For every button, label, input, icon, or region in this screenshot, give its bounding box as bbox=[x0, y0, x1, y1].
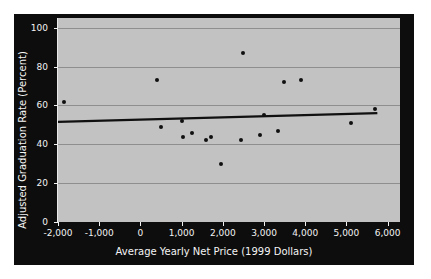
x-axis-tick bbox=[140, 222, 141, 226]
data-point bbox=[219, 162, 223, 166]
y-axis-tick-label: 80 bbox=[37, 62, 48, 71]
x-axis-tick-label: 2,000 bbox=[210, 228, 236, 238]
data-point bbox=[62, 100, 66, 104]
y-axis-tick bbox=[54, 67, 58, 68]
y-axis-tick-label: 100 bbox=[31, 23, 48, 32]
y-axis-tick bbox=[54, 144, 58, 145]
y-axis-title: Adjusted Graduation Rate (Percent) bbox=[17, 51, 29, 229]
x-axis-tick-label: 4,000 bbox=[292, 228, 318, 238]
x-axis-tick bbox=[58, 222, 59, 226]
x-axis-tick-label: 5,000 bbox=[334, 228, 360, 238]
x-axis-tick-label: 3,000 bbox=[251, 228, 277, 238]
data-point bbox=[190, 131, 194, 135]
y-axis-tick-label: 60 bbox=[37, 101, 48, 110]
x-axis-tick-label: -2,000 bbox=[43, 228, 72, 238]
y-axis-tick-label: 40 bbox=[37, 140, 48, 149]
trend-line bbox=[58, 18, 400, 222]
data-point bbox=[209, 135, 213, 139]
x-axis-tick bbox=[346, 222, 347, 226]
x-axis-tick bbox=[99, 222, 100, 226]
data-point bbox=[181, 135, 185, 139]
scatter-chart-figure: 020406080100 -2,000-1,00001,0002,0003,00… bbox=[0, 0, 431, 279]
x-axis-tick bbox=[223, 222, 224, 226]
y-axis-tick-label: 20 bbox=[37, 179, 48, 188]
data-point bbox=[159, 125, 163, 129]
x-axis-tick-label: -1,000 bbox=[85, 228, 114, 238]
y-axis-tick bbox=[54, 183, 58, 184]
x-axis-tick-label: 1,000 bbox=[169, 228, 195, 238]
data-point bbox=[204, 138, 208, 142]
x-axis-tick-label: 6,000 bbox=[375, 228, 401, 238]
y-axis-tick-label: 0 bbox=[42, 218, 48, 227]
x-axis-title: Average Yearly Net Price (1999 Dollars) bbox=[14, 246, 414, 258]
y-axis-tick bbox=[54, 28, 58, 29]
x-axis-tick-label: 0 bbox=[138, 228, 144, 238]
x-axis: -2,000-1,00001,0002,0003,0004,0005,0006,… bbox=[58, 222, 400, 248]
x-axis-tick bbox=[388, 222, 389, 226]
y-axis-title-container: Adjusted Graduation Rate (Percent) bbox=[14, 14, 32, 265]
data-point bbox=[258, 133, 262, 137]
x-axis-tick bbox=[305, 222, 306, 226]
x-axis-tick bbox=[264, 222, 265, 226]
y-axis-tick bbox=[54, 105, 58, 106]
x-axis-tick bbox=[182, 222, 183, 226]
plot-area bbox=[58, 18, 400, 222]
data-point bbox=[282, 80, 286, 84]
data-point bbox=[180, 119, 184, 123]
